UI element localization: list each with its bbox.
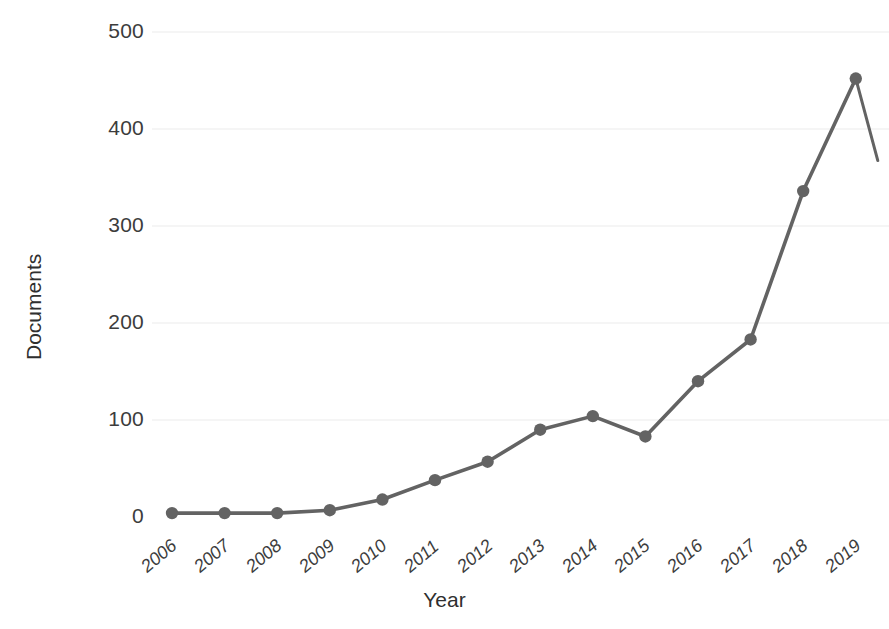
y-axis-tick-label: 500 [108,19,144,43]
data-point-marker [166,507,178,519]
y-axis-tick-label: 400 [108,116,144,140]
y-axis-tick-label: 200 [108,310,144,334]
data-point-marker [376,493,388,505]
x-axis-title: Year [0,588,889,612]
data-point-marker [797,185,809,197]
y-axis-title: Documents [22,254,46,360]
data-point-marker [744,333,756,345]
data-point-marker [692,375,704,387]
data-point-marker [534,424,546,436]
data-point-marker [271,507,283,519]
gridlines [152,32,889,420]
data-point-marker [429,474,441,486]
series-line [172,79,878,514]
y-axis-tick-label: 0 [132,504,144,528]
data-line [172,79,856,514]
line-chart: 0100200300400500 20062007200820092010201… [0,0,889,629]
series-markers [166,72,862,519]
data-point-marker [587,410,599,422]
data-point-marker [481,456,493,468]
y-axis-tick-label: 300 [108,213,144,237]
data-point-marker [639,430,651,442]
data-line-clipped-tail [856,79,878,161]
data-point-marker [324,504,336,516]
y-axis-tick-label: 100 [108,407,144,431]
data-point-marker [850,72,862,84]
data-point-marker [218,507,230,519]
